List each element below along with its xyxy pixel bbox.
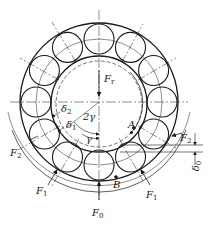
ball-240 [29, 119, 59, 149]
label-a: A [128, 120, 135, 130]
label-delta2: δ2 [61, 104, 72, 116]
label-f2-left: F2 [10, 148, 21, 160]
label-f2-right: F2 [180, 133, 191, 145]
label-f1-left: F1 [36, 186, 47, 198]
label-delta0: δ0 [191, 161, 203, 172]
label-f0: F0 [92, 208, 103, 220]
label-gamma: γ [86, 134, 92, 144]
label-delta1: δ1 [66, 120, 77, 132]
bearing-drawing [0, 0, 210, 231]
label-two-gamma: 2γ [83, 112, 95, 122]
label-b: B [113, 180, 120, 190]
label-f1-right: F1 [146, 190, 157, 202]
radial-lines [18, 22, 176, 186]
delta2-pointer [52, 112, 60, 117]
ball-120 [139, 119, 169, 149]
label-fr: Fr [104, 74, 114, 86]
point-b [115, 176, 118, 179]
f2-left-arrow [30, 136, 38, 140]
ball-150 [116, 142, 146, 172]
bearing-diagram: Fr F0 F1 F1 F2 F2 δ0 δ1 δ2 2γ γ A B [0, 0, 210, 231]
ball-210 [53, 142, 83, 172]
